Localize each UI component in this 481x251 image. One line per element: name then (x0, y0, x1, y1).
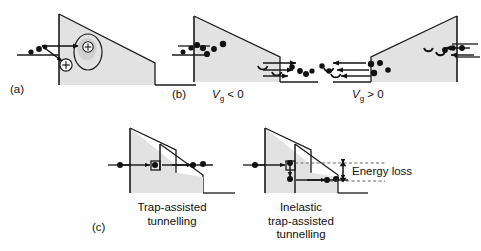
panel-letter-b: (b) (172, 88, 186, 102)
electron (442, 47, 448, 53)
electron (319, 63, 324, 68)
electron (117, 162, 123, 168)
vg-subscript: g (220, 94, 224, 103)
panel-c-left-diagram (108, 128, 235, 193)
caption-line-1: Trap-assisted (116, 201, 228, 215)
electron (309, 68, 314, 73)
electron (368, 61, 374, 67)
panel-letter-c: (c) (92, 221, 105, 235)
panel-letter-a: (a) (10, 83, 24, 97)
caption-line-1: Inelastic (246, 201, 356, 215)
electron (371, 70, 377, 76)
electron (450, 45, 455, 50)
vg-negative-relation: < 0 (227, 88, 243, 100)
vg-positive-relation: > 0 (367, 88, 383, 100)
electron (190, 162, 196, 168)
figure-root: (a) (b) Vg < 0 Vg > 0 (c) Trap-assisted … (0, 0, 481, 251)
electron (303, 71, 309, 77)
electron (287, 160, 293, 166)
electron (289, 64, 295, 70)
electron (194, 42, 200, 48)
caption-line-2: tunnelling (116, 215, 228, 229)
barrier-fill-a (59, 14, 155, 85)
panel-b-left-diagram (172, 16, 318, 82)
electron (385, 67, 391, 73)
electron (297, 68, 303, 74)
vg-negative-label: Vg < 0 (212, 88, 244, 104)
band-diagram-svg (0, 0, 481, 251)
hole (331, 74, 341, 77)
barrier-fill-b1 (194, 16, 280, 82)
electron (188, 45, 193, 50)
electron (36, 46, 42, 52)
panel-b-right-diagram (319, 16, 480, 82)
electron (204, 51, 210, 57)
electron (181, 50, 186, 55)
electron (28, 49, 33, 54)
electron (200, 45, 206, 51)
electron (324, 177, 330, 183)
electron (152, 162, 158, 168)
energy-loss-label: Energy loss (352, 165, 412, 179)
vg-subscript: g (360, 94, 364, 103)
electron (287, 176, 293, 182)
panel-a-diagram (17, 14, 196, 85)
electron (211, 46, 217, 52)
electron (252, 162, 258, 168)
panel-c-right-diagram (243, 128, 385, 193)
vg-positive-label: Vg > 0 (352, 88, 384, 104)
caption-inelastic-trap-assisted: Inelastic trap-assisted tunnelling (246, 201, 356, 242)
caption-trap-assisted: Trap-assisted tunnelling (116, 201, 228, 228)
energy-loss-arrow-head-up (340, 162, 347, 167)
electron (326, 68, 332, 74)
barrier-fill-c1c (152, 169, 203, 193)
caption-line-2: trap-assisted (246, 215, 356, 229)
electron (459, 45, 465, 51)
caption-line-3: tunnelling (246, 228, 356, 242)
electron (377, 60, 383, 66)
electron (200, 161, 206, 167)
electron (220, 41, 226, 47)
